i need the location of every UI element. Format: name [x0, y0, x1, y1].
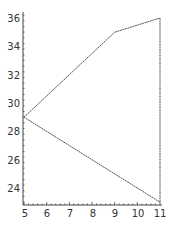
y-tick-label: 34	[7, 41, 20, 52]
x-tick-label: 7	[67, 208, 73, 219]
x-tick-label: 6	[44, 208, 50, 219]
x-tick-labels: 5 6 7 8 9 10 11	[22, 208, 167, 219]
y-tick-label: 30	[7, 98, 20, 109]
x-tick-label: 11	[154, 208, 167, 219]
x-axis	[23, 202, 162, 205]
data-line	[24, 18, 160, 202]
x-tick-label: 5	[22, 208, 28, 219]
y-axis	[23, 12, 25, 205]
polygon-line-chart: 24 26 28 30 32 34 36 5 6 7 8 9 10 11	[0, 0, 174, 228]
y-tick-label: 26	[7, 155, 20, 166]
y-tick-label: 28	[7, 126, 20, 137]
y-tick-label: 24	[7, 183, 20, 194]
x-tick-label: 10	[132, 208, 145, 219]
x-tick-label: 9	[112, 208, 118, 219]
x-tick-label: 8	[90, 208, 96, 219]
y-tick-label: 32	[7, 70, 20, 81]
y-tick-label: 36	[7, 13, 20, 24]
y-tick-labels: 24 26 28 30 32 34 36	[7, 13, 20, 194]
